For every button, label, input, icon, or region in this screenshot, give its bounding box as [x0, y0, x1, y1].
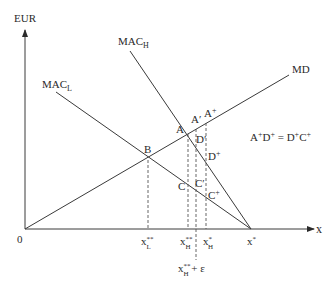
mac-l-curve: [56, 92, 251, 229]
point-c-prime-label: C′: [195, 177, 205, 189]
xH-eps-label: x**H + ε: [178, 262, 205, 278]
y-axis-label: EUR: [14, 12, 37, 24]
point-d-plus-label: D+: [208, 149, 221, 162]
point-c-label: C: [178, 180, 185, 192]
mac-l-label: MACL: [42, 78, 72, 93]
x-axis-label: x: [316, 222, 322, 236]
point-a-prime-label: A′: [191, 113, 201, 125]
point-a-plus-label: A+: [204, 106, 217, 119]
equation-label: A+D+ = D+C+: [250, 130, 311, 143]
md-label: MD: [292, 63, 310, 75]
point-d-prime-label: D′: [196, 133, 206, 145]
point-c-plus-label: C+: [208, 188, 220, 201]
abatement-diagram: EUR x 0 MACH MACL MD B A A′ A+ D′ D+ C C…: [0, 0, 331, 283]
x-star-label: x*: [247, 235, 257, 247]
xH-star-label: x*H: [203, 235, 213, 251]
xL-star-star-label: x**L: [141, 235, 154, 251]
point-a-label: A: [176, 123, 184, 135]
mac-h-label: MACH: [118, 35, 149, 50]
xH-star-star-label: x**H: [180, 235, 193, 251]
point-b-label: B: [144, 143, 151, 155]
origin-label: 0: [17, 233, 23, 245]
